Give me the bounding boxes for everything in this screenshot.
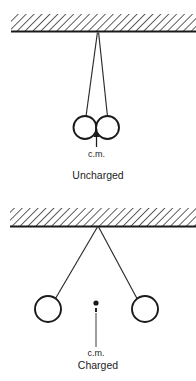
string-right-uncharged bbox=[99, 33, 108, 117]
string-right-charged bbox=[99, 227, 137, 299]
cm-dot-icon bbox=[93, 300, 98, 305]
ceiling-hatching bbox=[0, 196, 196, 238]
string-left-uncharged bbox=[86, 33, 97, 117]
sphere-left-uncharged bbox=[74, 116, 97, 139]
caption-uncharged: Uncharged bbox=[72, 169, 124, 181]
sphere-right-uncharged bbox=[96, 116, 119, 139]
diagram-canvas: c.m. Uncharged c.m. Charged bbox=[0, 0, 196, 381]
cm-label-charged: c.m. bbox=[88, 348, 105, 358]
sphere-right-charged bbox=[132, 296, 158, 322]
string-left-charged bbox=[56, 227, 98, 299]
ceiling-hatching bbox=[0, 2, 196, 44]
ceiling-charged bbox=[0, 196, 196, 238]
panel-uncharged: c.m. Uncharged bbox=[0, 2, 196, 181]
physics-figure: c.m. Uncharged c.m. Charged bbox=[0, 0, 196, 381]
sphere-left-charged bbox=[35, 296, 61, 322]
panel-charged: c.m. Charged bbox=[0, 196, 196, 371]
cm-marker-charged bbox=[93, 300, 98, 347]
ceiling-uncharged bbox=[0, 2, 196, 44]
caption-charged: Charged bbox=[78, 359, 118, 371]
cm-label-uncharged: c.m. bbox=[88, 149, 105, 159]
